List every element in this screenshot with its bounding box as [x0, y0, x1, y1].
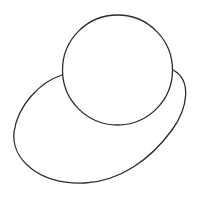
outer-blob-shape — [14, 70, 186, 183]
circle-shape — [63, 15, 173, 125]
drawing-canvas — [0, 0, 199, 199]
